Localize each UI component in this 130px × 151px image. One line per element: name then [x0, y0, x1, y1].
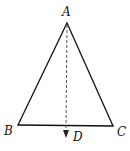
side-ab: [18, 23, 67, 125]
triangle-diagram: A B C D: [0, 0, 130, 151]
arrowhead-icon: [63, 130, 69, 138]
label-c: C: [117, 125, 126, 139]
side-ac: [67, 23, 113, 126]
label-b: B: [3, 124, 13, 138]
label-a: A: [61, 5, 71, 19]
side-bc: [18, 125, 113, 126]
dashed-line-ad: [66, 25, 67, 131]
label-d: D: [72, 130, 83, 144]
